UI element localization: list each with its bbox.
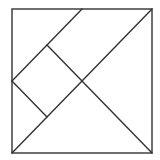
small-square-lower-edge: [12, 81, 47, 117]
tangram-diagram: [0, 0, 160, 160]
small-square-upper-edge: [47, 45, 82, 81]
center-to-bottom-right-line: [82, 81, 152, 153]
